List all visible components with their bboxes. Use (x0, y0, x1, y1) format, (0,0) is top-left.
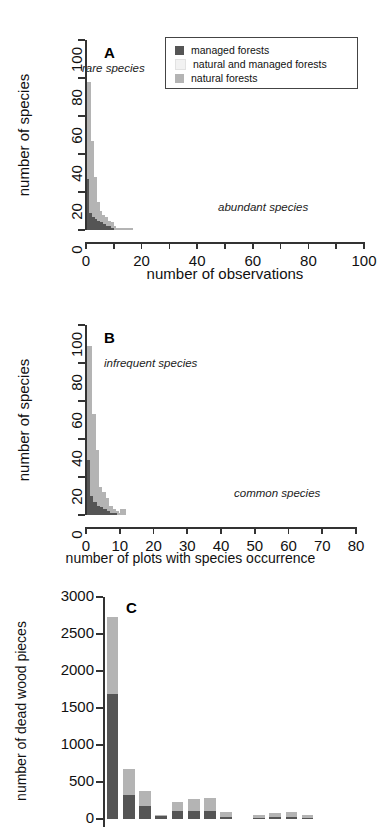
panel-a: number of species number of observations… (0, 0, 381, 285)
bar (128, 228, 133, 230)
bar (286, 812, 298, 819)
panel-a-y-tick-label: 100 (69, 40, 84, 80)
panel-c-y-tick-label: 2500 (42, 625, 94, 640)
panel-a-x-tick (280, 242, 282, 249)
panel-b-x-tick-label: 80 (330, 538, 381, 553)
bar-segment (172, 802, 184, 811)
panel-c-y-tick-label: 2000 (42, 662, 94, 677)
panel-b-x-tick (119, 527, 121, 534)
panel-b-y-axis-title: number of species (16, 325, 31, 515)
panel-b-y-tick-label: 60 (69, 401, 84, 441)
panel-a-x-tick-label: 40 (171, 253, 223, 268)
bar-segment (107, 694, 119, 819)
bar-segment (128, 228, 133, 230)
bar-segment (123, 769, 135, 795)
panel-a-y-tick-label: 60 (69, 116, 84, 156)
bar (204, 798, 216, 819)
panel-b-x-tick (153, 527, 155, 534)
panel-c: number of dead wood pieces C 05001000150… (0, 575, 381, 826)
panel-c-y-tick-label: 1500 (42, 699, 94, 714)
panel-a-x-tick (308, 242, 310, 249)
legend-swatch-natural (175, 74, 184, 83)
bar-segment (120, 509, 126, 515)
bar (172, 802, 184, 819)
bar-segment (269, 813, 281, 817)
panel-c-y-tick-label: 500 (42, 773, 94, 788)
legend-swatch-managed (175, 46, 184, 55)
bar-segment (188, 799, 200, 810)
legend-label-both: natural and managed forests (193, 59, 327, 70)
panel-a-x-tick (224, 242, 226, 249)
bar-segment (155, 816, 167, 819)
panel-b-plot-area (86, 325, 356, 515)
bar-segment (172, 811, 184, 819)
panel-c-y-tick-label: 0 (42, 810, 94, 825)
panel-a-x-tick-label: 80 (282, 253, 334, 268)
panel-a-x-tick-label: 0 (60, 253, 112, 268)
bar (107, 617, 119, 819)
panel-b-x-tick (254, 527, 256, 534)
panel-a-x-tick (335, 242, 337, 249)
bar-segment (204, 798, 216, 811)
panel-b-x-tick (85, 527, 87, 534)
bar-segment (302, 818, 314, 819)
panel-b-y-tick-label: 20 (69, 477, 84, 517)
bar (188, 799, 200, 819)
bar (302, 815, 314, 819)
legend-label-natural: natural forests (191, 73, 258, 84)
legend: managed forestsnatural and managed fores… (165, 37, 358, 89)
bar (253, 815, 265, 819)
panel-c-y-tick (96, 707, 103, 709)
legend-label-managed: managed forests (191, 45, 269, 56)
panel-a-y-tick-label: 20 (69, 192, 84, 232)
legend-item: natural forests (175, 73, 258, 84)
panel-c-y-tick (96, 781, 103, 783)
bar-segment (107, 617, 119, 694)
panel-b-x-tick (186, 527, 188, 534)
panel-a-x-tick (85, 242, 87, 249)
panel-a-x-tick (363, 242, 365, 249)
panel-a-y-axis-line (85, 40, 87, 230)
panel-c-plot-area (104, 597, 374, 819)
panel-b-y-tick-label: 40 (69, 439, 84, 479)
legend-item: managed forests (175, 45, 269, 56)
panel-b-x-tick (220, 527, 222, 534)
panel-a-x-tick (196, 242, 198, 249)
bar (220, 812, 232, 819)
bar-segment (302, 815, 314, 818)
panel-a-y-tick-label: 40 (69, 154, 84, 194)
bar-segment (220, 817, 232, 819)
bar-segment (204, 811, 216, 819)
panel-b-y-tick-label: 100 (69, 325, 84, 365)
panel-b-x-tick (288, 527, 290, 534)
bar (139, 791, 151, 819)
bar (120, 509, 126, 515)
panel-a-x-tick (252, 242, 254, 249)
panel-a-x-tick (141, 242, 143, 249)
bar (269, 813, 281, 819)
panel-c-y-tick-label: 3000 (42, 588, 94, 603)
panel-a-x-tick-label: 20 (116, 253, 168, 268)
panel-b-y-axis-line (85, 325, 87, 515)
bar-segment (123, 795, 135, 819)
bar-segment (188, 811, 200, 819)
panel-a-y-axis-title: number of species (16, 40, 31, 230)
panel-a-x-tick (169, 242, 171, 249)
bar-segment (253, 815, 265, 817)
bar (123, 769, 135, 819)
legend-swatch-both (175, 59, 186, 70)
bar-segment (220, 812, 232, 816)
bar-segment (139, 791, 151, 806)
panel-c-y-tick (96, 818, 103, 820)
panel-c-y-axis-line (103, 597, 105, 827)
panel-c-y-tick-label: 1000 (42, 736, 94, 751)
panel-c-y-tick (96, 670, 103, 672)
panel-a-y-tick-label: 80 (69, 78, 84, 118)
panel-c-y-tick (96, 744, 103, 746)
panel-b-y-tick-label: 80 (69, 363, 84, 403)
bar-segment (253, 818, 265, 819)
bar (155, 815, 167, 819)
panel-a-x-axis-title: number of observations (86, 266, 364, 281)
bar-segment (155, 815, 167, 816)
